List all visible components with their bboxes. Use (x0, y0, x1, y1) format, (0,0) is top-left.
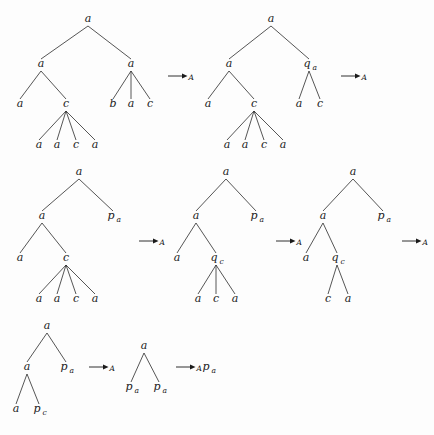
tree-node: c (63, 251, 69, 264)
tree-node: a (205, 97, 212, 110)
tree-node: pa (125, 380, 139, 395)
tree-edge (229, 26, 271, 59)
tree-node: a (303, 251, 310, 264)
tree-node-subscript: c (220, 257, 225, 266)
arrow-subscript-label: A (188, 73, 195, 82)
arrow-head-icon (416, 238, 422, 243)
tree-node: qa (303, 57, 317, 72)
tree-node-label: p (250, 209, 257, 222)
tree-node: qc (210, 251, 224, 266)
tree-node: a (36, 138, 43, 151)
arrow-head-icon (182, 73, 188, 78)
tree-edge (337, 265, 348, 294)
tree-node: a (92, 138, 99, 151)
tree-edge (20, 71, 41, 99)
tree-edge (66, 111, 95, 140)
tree-node-label: a (242, 138, 249, 151)
arrow-subscript-label: A (361, 73, 368, 82)
tree-node: qc (331, 251, 345, 266)
tree-node: a (92, 292, 99, 305)
tree-edge (27, 374, 39, 404)
tree-node-subscript: a (70, 366, 74, 375)
tree-node-subscript: a (260, 215, 264, 224)
rewrite-arrow: A (176, 364, 203, 373)
arrow-subscript-label: A (422, 238, 429, 247)
rewrite-arrow: A (89, 364, 116, 373)
tree-node-label: p (202, 360, 209, 373)
tree-node-label: a (303, 251, 310, 264)
tree-edge (66, 265, 95, 294)
tree-edge (198, 265, 216, 294)
tree-edge (88, 26, 131, 59)
tree-node-label: a (223, 165, 230, 178)
tree-node-label: a (232, 292, 239, 305)
tree-edge (41, 26, 88, 59)
tree-node-subscript: a (313, 63, 317, 72)
tree-edges-layer (16, 26, 383, 404)
tree-node-label: c (261, 138, 267, 151)
tree-node: b (109, 97, 116, 110)
tree-edge (227, 111, 254, 140)
tree-edge (196, 223, 216, 253)
tree-edge (226, 179, 256, 211)
tree-node: pa (107, 209, 121, 224)
tree-edge (254, 111, 264, 140)
tree-node: a (268, 12, 275, 25)
tree-node-label: a (195, 292, 202, 305)
tree-node: c (251, 97, 257, 110)
tree-node: a (280, 138, 287, 151)
tree-node-subscript: c (43, 408, 48, 417)
tree-node: a (13, 402, 20, 415)
tree-node: a (128, 57, 135, 70)
tree-node-label: a (54, 292, 61, 305)
rewrite-arrow: A (402, 238, 429, 247)
tree-edge (113, 71, 131, 99)
arrow-head-icon (290, 238, 296, 243)
rewrite-arrow: A (276, 238, 303, 247)
tree-node-label: a (17, 97, 24, 110)
arrow-head-icon (103, 364, 109, 369)
tree-node: a (24, 360, 31, 373)
tree-node: pc (33, 402, 47, 417)
tree-node-label: c (73, 138, 79, 151)
tree-node: a (38, 57, 45, 70)
tree-edge (47, 333, 66, 362)
tree-node: c (73, 138, 79, 151)
tree-edge (66, 265, 76, 294)
tree-node: a (17, 97, 24, 110)
tree-node: a (54, 138, 61, 151)
tree-node: a (226, 57, 233, 70)
tree-node-label: a (13, 402, 20, 415)
tree-node: c (325, 292, 331, 305)
tree-node: c (261, 138, 267, 151)
tree-node: a (193, 209, 200, 222)
tree-node-subscript: a (117, 215, 121, 224)
tree-node: a (296, 97, 303, 110)
tree-node-subscript: a (135, 386, 139, 395)
tree-node: a (242, 138, 249, 151)
tree-node-label: a (296, 97, 303, 110)
tree-node-label: a (128, 57, 135, 70)
tree-edge (131, 353, 144, 382)
tree-node: a (17, 251, 24, 264)
tree-node-label: a (174, 251, 181, 264)
tree-node-label: a (268, 12, 275, 25)
tree-node: pa (202, 360, 216, 375)
tree-node-label: c (63, 251, 69, 264)
tree-node-label: p (33, 402, 40, 415)
tree-edge (229, 71, 254, 99)
tree-node-label: c (325, 292, 331, 305)
tree-node-label: a (44, 319, 51, 332)
tree-node: c (147, 97, 153, 110)
tree-node-subscript: a (387, 215, 391, 224)
tree-node: pa (250, 209, 264, 224)
tree-node-subscript: c (341, 257, 346, 266)
tree-edge (79, 179, 113, 211)
tree-node: a (128, 97, 135, 110)
arrow-subscript-label: A (296, 238, 303, 247)
rewrite-arrow: A (139, 238, 166, 247)
tree-node-label: a (17, 251, 24, 264)
tree-node-label: a (320, 209, 327, 222)
tree-node-label: p (60, 360, 67, 373)
tree-node-label: a (350, 165, 357, 178)
